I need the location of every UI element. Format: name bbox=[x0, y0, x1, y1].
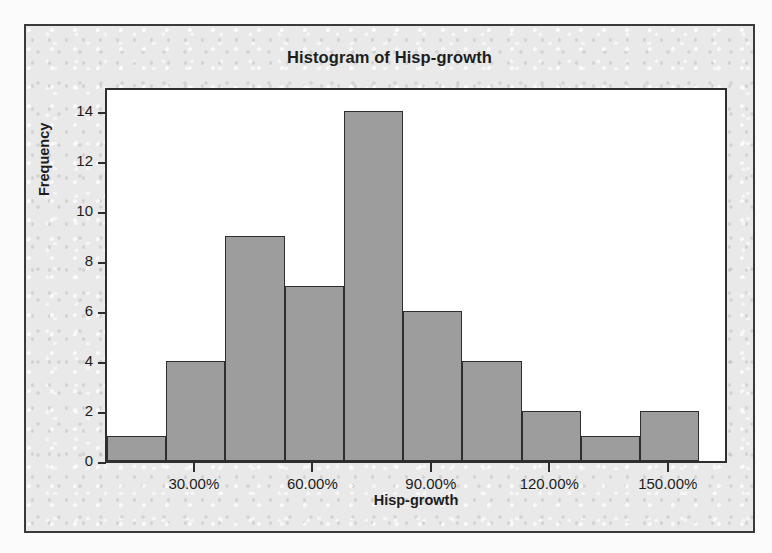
histogram-bar bbox=[344, 111, 403, 461]
y-axis: 02468101214 bbox=[26, 26, 105, 531]
x-tick-label: 150.00% bbox=[638, 475, 697, 492]
histogram-bar bbox=[166, 361, 225, 461]
screenshot-root: Histogram of Hisp-growth Frequency 02468… bbox=[0, 0, 772, 553]
histogram-bar bbox=[462, 361, 521, 461]
y-tick-label: 0 bbox=[85, 452, 93, 469]
chart-title: Histogram of Hisp-growth bbox=[26, 48, 753, 67]
histogram-bar bbox=[403, 311, 462, 461]
x-tick-mark bbox=[667, 463, 669, 472]
y-tick-label: 10 bbox=[76, 202, 93, 219]
y-tick-label: 8 bbox=[85, 252, 93, 269]
plot-area bbox=[105, 88, 727, 463]
x-tick-label: 30.00% bbox=[168, 475, 219, 492]
y-tick-label: 6 bbox=[85, 302, 93, 319]
histogram-bar bbox=[581, 436, 640, 461]
x-tick-mark bbox=[193, 463, 195, 472]
y-tick-label: 14 bbox=[76, 102, 93, 119]
y-tick-label: 4 bbox=[85, 352, 93, 369]
x-tick-mark bbox=[548, 463, 550, 472]
x-tick-label: 60.00% bbox=[287, 475, 338, 492]
y-tick-label: 12 bbox=[76, 152, 93, 169]
histogram-bar bbox=[640, 411, 699, 461]
y-tick-label: 2 bbox=[85, 402, 93, 419]
x-axis-title: Hisp-growth bbox=[105, 492, 727, 508]
x-tick-mark bbox=[311, 463, 313, 472]
x-tick-label: 90.00% bbox=[405, 475, 456, 492]
chart-frame: Histogram of Hisp-growth Frequency 02468… bbox=[24, 24, 755, 533]
histogram-bar bbox=[107, 436, 166, 461]
histogram-bar bbox=[522, 411, 581, 461]
histogram-bar bbox=[285, 286, 344, 461]
histogram-bar bbox=[225, 236, 284, 461]
histogram-bars bbox=[107, 90, 725, 461]
x-tick-mark bbox=[430, 463, 432, 472]
x-tick-label: 120.00% bbox=[520, 475, 579, 492]
